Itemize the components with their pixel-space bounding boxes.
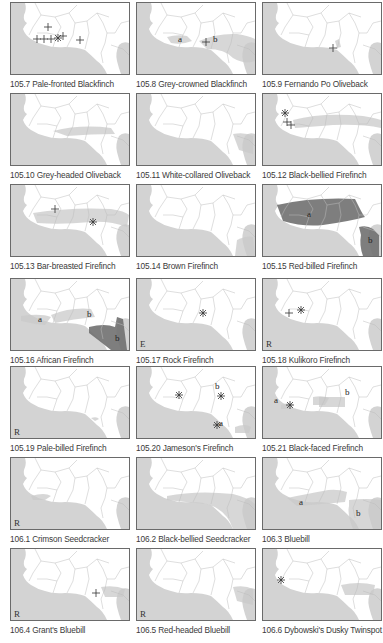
species-caption: 105.21 Black-faced Firefinch: [262, 443, 363, 453]
land-mass: [275, 94, 381, 165]
distribution-map: R: [10, 366, 130, 439]
species-caption: 105.15 Red-billed Firefinch: [262, 261, 357, 271]
land-mass: [23, 367, 129, 438]
west-africa-map: ab: [263, 185, 381, 256]
land-mass: [275, 3, 381, 74]
land-mass: [149, 94, 255, 165]
range-area-light: [349, 499, 382, 529]
subspecies-label: b: [115, 333, 120, 343]
west-africa-map: ab: [263, 367, 381, 438]
record-star-icon: [217, 392, 225, 400]
west-africa-map: [11, 367, 129, 438]
species-caption: 106.5 Red-headed Bluebill: [136, 625, 230, 635]
west-africa-map: [137, 458, 255, 529]
west-africa-map: [263, 279, 381, 350]
distribution-map: [136, 184, 256, 257]
record-star-icon: [54, 34, 62, 42]
west-africa-map: [137, 549, 255, 620]
species-caption: 106.6 Dybowski's Dusky Twinspot: [262, 625, 382, 635]
subspecies-label: a: [178, 34, 182, 44]
west-africa-map: ab: [137, 3, 255, 74]
species-caption: 106.4 Grant's Bluebill: [10, 625, 85, 635]
record-star-icon: [277, 576, 285, 584]
species-caption: 105.13 Bar-breasted Firefinch: [10, 261, 115, 271]
species-caption: 105.18 Kulikoro Firefinch: [262, 355, 350, 365]
species-caption: 105.8 Grey-crowned Blackfinch: [136, 79, 247, 89]
record-star-icon: [89, 218, 97, 226]
status-code: R: [140, 609, 146, 619]
subspecies-label: a: [38, 314, 42, 324]
distribution-map: [136, 93, 256, 166]
record-star-icon: [175, 391, 183, 399]
distribution-map: E: [136, 278, 256, 351]
status-code: R: [14, 609, 20, 619]
record-star-icon: [281, 109, 289, 117]
record-star-icon: [297, 306, 305, 314]
status-code: R: [14, 518, 20, 528]
west-africa-map: [11, 3, 129, 74]
distribution-map: [262, 548, 382, 621]
species-caption: 106.3 Bluebill: [262, 534, 310, 544]
species-caption: 105.9 Fernando Po Oliveback: [262, 79, 368, 89]
status-code: R: [266, 339, 272, 349]
land-mass: [275, 279, 381, 350]
distribution-map: ab: [136, 2, 256, 75]
west-africa-map: [263, 549, 381, 620]
distribution-map: ba: [136, 366, 256, 439]
west-africa-map: [263, 94, 381, 165]
west-africa-map: [11, 549, 129, 620]
west-africa-map: [137, 94, 255, 165]
west-africa-map: abb: [11, 279, 129, 350]
species-caption: 105.20 Jameson's Firefinch: [136, 443, 233, 453]
species-caption: 105.17 Rock Firefinch: [136, 355, 214, 365]
subspecies-label: b: [87, 309, 92, 319]
subspecies-label: b: [213, 34, 218, 44]
species-caption: 105.12 Black-bellied Firefinch: [262, 170, 366, 180]
land-mass: [23, 549, 129, 620]
west-africa-map: ab: [263, 458, 381, 529]
distribution-map: ab: [262, 457, 382, 530]
subspecies-label: a: [219, 418, 223, 428]
status-code: E: [140, 339, 146, 349]
record-star-icon: [213, 421, 221, 429]
subspecies-label: b: [368, 235, 373, 245]
distribution-map: [262, 93, 382, 166]
distribution-map: abb: [10, 278, 130, 351]
range-area-light: [235, 425, 251, 433]
distribution-map: R: [262, 278, 382, 351]
subspecies-label: b: [345, 387, 350, 397]
species-caption: 106.1 Crimson Seedcracker: [10, 534, 109, 544]
species-caption: 105.19 Pale-billed Firefinch: [10, 443, 106, 453]
status-code: R: [14, 427, 20, 437]
west-africa-map: [11, 94, 129, 165]
record-star-icon: [286, 401, 294, 409]
distribution-map: R: [136, 548, 256, 621]
distribution-map: ab: [262, 366, 382, 439]
species-caption: 105.10 Grey-headed Oliveback: [10, 170, 121, 180]
distribution-map: R: [10, 457, 130, 530]
land-mass: [23, 3, 129, 74]
subspecies-label: a: [274, 395, 278, 405]
species-caption: 105.14 Brown Firefinch: [136, 261, 218, 271]
subspecies-label: a: [299, 497, 303, 507]
distribution-map: [262, 2, 382, 75]
distribution-map: R: [10, 548, 130, 621]
distribution-map: [10, 184, 130, 257]
distribution-map: ab: [262, 184, 382, 257]
land-mass: [149, 549, 255, 620]
distribution-map: [10, 2, 130, 75]
west-africa-map: [11, 458, 129, 529]
subspecies-label: b: [356, 508, 361, 518]
species-caption: 105.7 Pale-fronted Blackfinch: [10, 79, 114, 89]
species-caption: 105.11 White-collared Oliveback: [136, 170, 250, 180]
range-area-light: [21, 315, 51, 325]
record-star-icon: [199, 309, 207, 317]
distribution-map: [10, 93, 130, 166]
west-africa-map: ba: [137, 367, 255, 438]
land-mass: [23, 458, 129, 529]
west-africa-map: [263, 3, 381, 74]
distribution-map: [136, 457, 256, 530]
west-africa-map: [11, 185, 129, 256]
subspecies-label: a: [307, 209, 311, 219]
species-caption: 105.16 African Firefinch: [10, 355, 94, 365]
